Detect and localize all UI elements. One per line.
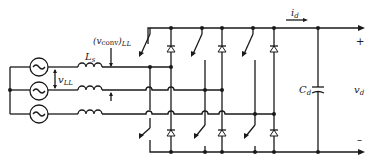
diode-upper-1-icon: [167, 46, 175, 52]
dc-positive-rail: [148, 25, 365, 44]
neutral-bus: [8, 67, 30, 114]
diode-lower-2-icon: [218, 130, 226, 136]
diode-upper-2-icon: [218, 46, 226, 52]
positive-terminal-sign: +: [356, 36, 364, 47]
switch-lower-3-icon: [244, 125, 255, 139]
ac-source-a-icon: [30, 58, 48, 76]
line-voltage-arrow: [53, 69, 57, 89]
line-voltage-label: vLL: [58, 74, 73, 87]
dc-voltage-label: vd: [354, 84, 365, 97]
inductor-b-icon: [78, 86, 102, 90]
converter-circuit-diagram: vLL Ls (vconv)LL: [0, 0, 373, 161]
leg-3: [242, 26, 278, 154]
inductor-a-icon: [78, 63, 102, 67]
switch-upper-2-icon: [191, 28, 202, 57]
switch-upper-3-icon: [242, 28, 253, 57]
converter-voltage-label: (vconv)LL: [93, 36, 131, 48]
ac-source-c-icon: [30, 105, 48, 123]
capacitor-label: Cd: [299, 84, 312, 97]
dc-capacitor-icon: [312, 26, 324, 154]
diode-lower-3-icon: [270, 130, 278, 136]
diode-upper-3-icon: [270, 46, 278, 52]
negative-terminal-sign: –: [357, 134, 362, 145]
converter-voltage-arrow: [109, 48, 113, 101]
ac-source-b-icon: [30, 82, 48, 100]
inductor-c-icon: [78, 110, 102, 114]
diode-lower-1-icon: [167, 130, 175, 136]
inductance-label: Ls: [84, 51, 96, 64]
switch-lower-1-icon: [139, 128, 150, 139]
dc-negative-rail: [150, 140, 365, 155]
dc-current-label: id: [291, 7, 299, 20]
switch-lower-2-icon: [194, 125, 205, 139]
